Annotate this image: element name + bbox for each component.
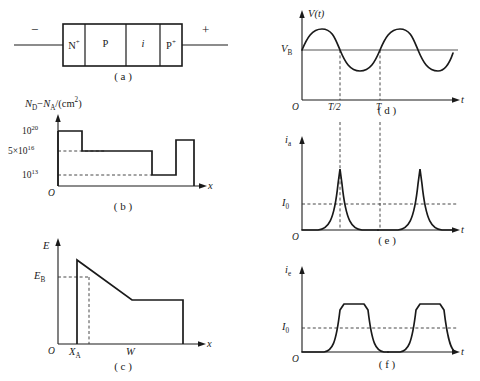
i0-subscript: 0 (286, 203, 290, 211)
panel-b-y-arrow (55, 114, 60, 122)
panel-b-ytick-5e16: 5×1016 (8, 144, 34, 156)
panel-f-svg (240, 252, 480, 381)
panel-c-origin: O (48, 346, 55, 356)
panel-b-x-arrow (199, 183, 207, 188)
panel-b-x-axis-title: x (208, 180, 213, 191)
region-i-label: i (126, 38, 160, 49)
panel-f-ytick-i0: I0 (282, 321, 289, 335)
caption-e: ( e ) (362, 234, 412, 246)
panel-b-y-axis-label: ND−NA/(cm2) (25, 96, 82, 112)
panel-c-electric-field: E EB O XA W x ( c ) (0, 222, 240, 381)
terminal-minus-sign: − (31, 22, 38, 38)
panel-e-pulse-2 (378, 169, 454, 230)
terminal-plus-sign: + (202, 22, 209, 38)
panel-c-svg (0, 222, 240, 381)
panel-d-x-axis-title: t (461, 94, 464, 105)
panel-c-field-curve (77, 260, 183, 344)
panel-c-xtick-w: W (126, 346, 135, 357)
panel-f-y-axis-title: ie (285, 264, 291, 278)
panel-f-origin: O (292, 354, 299, 364)
panel-b-ytick-1e13: 1013 (22, 168, 38, 180)
panel-f-x-axis-title: t (461, 346, 464, 357)
n-plus-superscript: + (76, 38, 80, 46)
caption-d: ( d ) (362, 104, 412, 116)
panel-b-origin: O (48, 188, 55, 198)
panel-d-xtick-t-half: T/2 (328, 102, 341, 112)
vb-subscript: B (287, 49, 292, 57)
panel-b-doping-profile: ND−NA/(cm2) 1020 5×1016 1013 x O ( b ) (0, 94, 240, 219)
figure-root: − + N+ P i P+ ( a ) ND−NA/(cm2) 1020 5×1… (0, 0, 480, 381)
region-n-plus-label: N+ (63, 38, 85, 51)
panel-e-ytick-i0: I0 (282, 197, 289, 211)
vt-arg: (t) (314, 8, 324, 19)
xa-subscript: A (75, 352, 80, 360)
panel-b-ytick-1e20: 1020 (22, 124, 38, 136)
panel-d-x-arrow (452, 97, 460, 102)
panel-f-y-arrow (299, 266, 304, 274)
p-plus-superscript: + (172, 38, 176, 46)
panel-d-origin: O (292, 102, 299, 112)
panel-f-external-current: ie I0 O t ( f ) (240, 252, 480, 381)
region-p-label: P (85, 38, 126, 49)
panel-e-svg (240, 122, 480, 250)
panel-d-y-arrow (299, 10, 304, 18)
panel-e-y-arrow (299, 136, 304, 144)
panel-a-device-structure: − + N+ P i P+ ( a ) (0, 0, 240, 90)
panel-c-xtick-xa: XA (69, 346, 81, 360)
panel-e-avalanche-current: ia I0 O t ( e ) (240, 122, 480, 250)
panel-d-ytick-vb: VB (281, 43, 292, 57)
panel-d-y-axis-title: V(t) (308, 8, 324, 19)
panel-c-y-arrow (55, 238, 60, 246)
eb-subscript: B (40, 276, 45, 284)
panel-c-y-axis-title: E (43, 240, 49, 251)
ie-subscript: e (288, 270, 291, 278)
panel-d-voltage-waveform: V(t) VB O T/2 T t ( d ) (240, 0, 480, 118)
caption-b: ( b ) (98, 200, 148, 212)
i0f-subscript: 0 (286, 327, 290, 335)
ia-subscript: a (288, 140, 291, 148)
panel-d-svg (240, 0, 480, 118)
caption-c: ( c ) (98, 360, 148, 372)
panel-e-origin: O (292, 232, 299, 242)
panel-c-ytick-eb: EB (34, 270, 45, 284)
panel-c-x-axis-title: x (207, 338, 212, 349)
panel-c-x-arrow (198, 341, 206, 346)
caption-f: ( f ) (362, 358, 412, 370)
region-p-plus-label: P+ (160, 38, 182, 51)
caption-a: ( a ) (98, 70, 148, 82)
panel-e-y-axis-title: ia (285, 134, 291, 148)
panel-b-doping-step-curve (58, 131, 194, 186)
panel-e-x-axis-title: t (461, 224, 464, 235)
